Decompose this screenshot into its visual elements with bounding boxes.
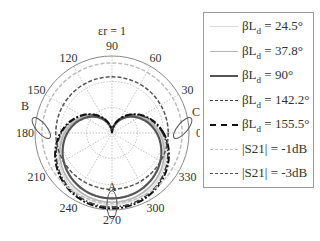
legend-label: βLd = 142.2° [242, 92, 309, 110]
grid-spoke [74, 133, 113, 200]
grid-spoke [45, 95, 112, 134]
annotation-label: B [21, 99, 29, 113]
grid-spoke [112, 66, 151, 133]
grid-spoke [112, 95, 179, 134]
annotation-label: A [108, 180, 117, 194]
legend-label: βLd = 37.8° [242, 43, 303, 61]
legend-swatch [210, 173, 238, 174]
legend-label: βLd = 90° [242, 67, 293, 85]
angle-tick-label: 330 [178, 170, 196, 184]
legend-entry: βLd = 155.5° [204, 115, 313, 135]
grid-spoke [74, 66, 113, 133]
legend-entry: βLd = 90° [204, 66, 313, 86]
legend-entry: βLd = 24.5° [204, 17, 313, 37]
legend-swatch [210, 124, 238, 126]
angle-tick-label: 300 [147, 201, 165, 215]
legend-entry: |S21| = -1dB [204, 140, 313, 160]
legend-label: βLd = 155.5° [242, 116, 309, 134]
angle-tick-label: 270 [103, 213, 121, 227]
angle-tick-label: 210 [28, 170, 46, 184]
chart-legend: βLd = 24.5°βLd = 37.8°βLd = 90°βLd = 142… [203, 12, 314, 188]
grid-spoke [112, 133, 151, 200]
angle-tick-label: 0 [196, 126, 200, 140]
legend-swatch [210, 149, 238, 150]
angle-tick-label: 180 [16, 126, 34, 140]
angle-tick-label: 120 [60, 51, 78, 65]
angle-tick-label: 90 [106, 39, 118, 53]
angle-tick-label: 150 [28, 83, 46, 97]
legend-entry: βLd = 142.2° [204, 91, 313, 111]
annotation-label: C [192, 105, 200, 119]
legend-swatch [210, 100, 238, 101]
chart-title: εr = 1 [98, 24, 126, 38]
legend-swatch [210, 51, 238, 52]
legend-label: βLd = 24.5° [242, 18, 303, 36]
legend-swatch [210, 75, 238, 77]
polar-plot: 0306090120150180210240270300330ABCεr = 1 [0, 0, 200, 241]
angle-tick-label: 60 [150, 51, 162, 65]
legend-entry: βLd = 37.8° [204, 42, 313, 62]
legend-label: |S21| = -1dB [242, 141, 307, 157]
angle-tick-label: 30 [181, 83, 193, 97]
legend-label: |S21| = -3dB [242, 165, 307, 181]
angle-tick-label: 240 [60, 201, 78, 215]
legend-entry: |S21| = -3dB [204, 164, 313, 184]
legend-swatch [210, 26, 238, 27]
